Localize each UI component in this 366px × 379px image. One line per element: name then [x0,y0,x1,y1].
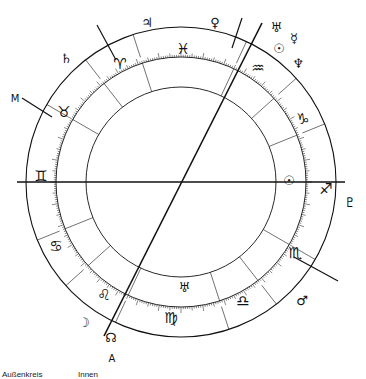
asc-label: A [109,353,116,364]
degree-tick [74,250,76,251]
house-cusp-line [252,98,274,118]
degree-tick [101,279,102,281]
degree-tick [245,73,246,75]
degree-tick [278,261,280,262]
degree-tick [136,59,138,65]
degree-tick [245,289,246,291]
degree-tick [292,239,294,240]
degree-tick [104,80,105,82]
degree-tick [96,275,97,277]
degree-tick [234,295,236,299]
degree-tick [247,74,248,76]
degree-tick [256,282,257,284]
sign-leo-icon: ♌ [97,286,110,304]
degree-tick [242,71,243,73]
degree-tick [69,241,71,242]
degree-tick [281,105,283,106]
sign-pisces-icon: ♓ [176,40,189,58]
house-cusp-line [263,230,289,245]
degree-tick [97,82,101,87]
degree-tick [67,126,69,127]
degree-tick [256,80,257,82]
house-cusp-line [73,120,99,135]
degree-tick [299,223,301,224]
degree-tick [114,74,115,76]
sign-sagittarius-icon: ♐ [319,180,332,198]
planet-pluto-icon: ♇ [344,195,356,210]
degree-tick [247,288,248,290]
degree-tick [232,66,233,68]
degree-tick [81,259,83,260]
degree-tick [56,149,60,150]
degree-tick [291,122,293,123]
degree-tick [292,124,294,125]
degree-tick [101,83,102,85]
degree-tick [114,288,115,290]
degree-tick [254,283,255,285]
pointer-line [22,98,52,117]
degree-tick [301,219,303,220]
degree-tick [222,62,223,64]
degree-tick [79,257,81,258]
degree-tick [275,264,277,265]
degree-tick [94,89,96,91]
degree-tick [298,137,304,139]
degree-tick [64,235,68,237]
pointer-line [232,18,242,48]
degree-tick [263,276,264,278]
degree-tick [287,115,289,116]
degree-tick [144,60,145,62]
degree-tick [129,66,130,68]
degree-tick [116,290,119,295]
planet-neptune-icon: ♆ [292,56,304,71]
planet-jupiter-icon: ♃ [141,15,153,30]
degree-tick [85,264,87,265]
degree-tick [126,295,128,299]
degree-tick [268,90,270,92]
degree-tick [232,296,233,298]
degree-tick [282,107,284,108]
house-cusp-line [239,257,257,281]
degree-tick [60,221,62,222]
planet-node-icon: ☊ [105,330,117,345]
degree-tick [96,87,97,89]
degree-tick [68,245,73,248]
degree-tick [81,262,86,266]
degree-tick [302,149,306,150]
degree-tick [89,94,91,96]
planet-mercury-icon: ☿ [290,31,298,46]
degree-tick [294,235,298,237]
degree-tick [288,116,290,117]
degree-tick [65,130,67,131]
house-cusp-line [128,268,141,295]
degree-tick [90,270,93,273]
degree-tick [89,269,91,271]
horoscope-wheel: ♈♉♊♋♌♍♎♏♐♑♒♓ ♃♄♀♅☿☉♆☉♇♂♅☽☊ MA [0,0,366,379]
degree-tick [218,302,219,304]
mc-label: M [11,93,20,104]
degree-tick [266,273,268,275]
degree-tick [73,248,75,249]
degree-tick [75,254,78,256]
degree-tick [289,117,294,120]
degree-tick [203,305,204,311]
degree-tick [115,73,116,75]
degree-tick [244,69,247,74]
degree-tick [72,116,74,117]
degree-tick [78,255,80,256]
degree-tick [75,108,78,110]
sign-aries-icon: ♈ [113,55,126,73]
degree-tick [300,143,302,144]
degree-tick [218,60,219,62]
degree-tick [224,59,226,65]
degree-tick [304,159,310,160]
degree-tick [299,141,301,142]
degree-tick [277,98,282,102]
degree-tick [144,302,145,304]
degree-tick [76,252,78,253]
degree-tick [93,272,95,274]
sign-division-line [236,42,246,64]
sign-cancer-icon: ♋ [49,237,62,255]
degree-tick [274,97,276,98]
sign-division-line [86,60,101,79]
